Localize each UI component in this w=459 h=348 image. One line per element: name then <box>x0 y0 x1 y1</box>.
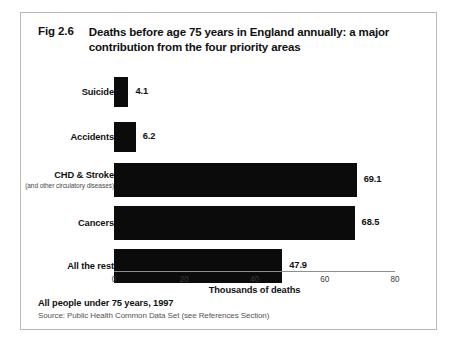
x-axis-title: Thousands of deaths <box>114 285 395 295</box>
bar-rect <box>114 206 355 240</box>
x-axis-tick-label: 80 <box>391 275 400 284</box>
x-axis-tick-label: 0 <box>112 275 116 284</box>
bar-value-label: 68.5 <box>362 217 380 227</box>
bar-value-label: 69.1 <box>364 174 382 184</box>
bar-value-label: 4.1 <box>135 86 148 96</box>
figure-number: Fig 2.6 <box>38 25 74 37</box>
figure-title: Deaths before age 75 years in England an… <box>89 25 424 55</box>
bar-category-label: All the rest <box>21 261 114 272</box>
x-axis-line <box>114 271 395 272</box>
bar-track: 6.2 <box>114 122 438 152</box>
bar-track: 69.1 <box>114 163 438 197</box>
bar-category-label: CHD & Stroke(and other circulatory disea… <box>21 170 114 190</box>
x-axis-tick-label: 60 <box>320 275 329 284</box>
bar-category-label: Suicide <box>21 87 114 98</box>
x-axis-tick-label: 40 <box>250 275 259 284</box>
footer-source: Source: Public Health Common Data Set (s… <box>38 311 269 320</box>
bar-category-label: Accidents <box>21 132 114 143</box>
bar-rect <box>114 163 357 197</box>
bar-track: 68.5 <box>114 206 438 240</box>
bar-track: 4.1 <box>114 77 438 107</box>
bar-category-sublabel: (and other circulatory diseases) <box>21 182 114 190</box>
bar-value-label: 6.2 <box>143 131 156 141</box>
bar-category-label: Cancers <box>21 218 114 229</box>
bar-rect <box>114 122 136 152</box>
chart-plot-area: Suicide4.1Accidents6.2CHD & Stroke(and o… <box>21 63 438 273</box>
bar-row: Suicide4.1 <box>21 77 438 107</box>
bar-row: Cancers68.5 <box>21 206 438 240</box>
x-axis-tick-label: 20 <box>180 275 189 284</box>
figure-frame: Fig 2.6 Deaths before age 75 years in En… <box>20 12 437 330</box>
bar-rect <box>114 77 128 107</box>
figure-title-block: Fig 2.6 Deaths before age 75 years in En… <box>38 25 424 55</box>
figure-footer: All people under 75 years, 1997 Source: … <box>38 298 269 320</box>
bar-row: Accidents6.2 <box>21 122 438 152</box>
footer-caption: All people under 75 years, 1997 <box>38 298 269 308</box>
bar-row: CHD & Stroke(and other circulatory disea… <box>21 163 438 197</box>
bar-value-label: 47.9 <box>289 260 307 270</box>
